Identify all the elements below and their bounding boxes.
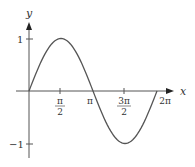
x-tick-label-3pi-over-2-num: 3π xyxy=(118,96,130,106)
sine-chart: x y 1 −1 π 2 π 3π 2 2π xyxy=(0,0,195,167)
x-tick-label-2pi: 2π xyxy=(159,96,171,106)
x-tick-label-3pi-over-2-den: 2 xyxy=(121,107,127,117)
x-tick-label-pi-over-2-den: 2 xyxy=(57,107,63,117)
x-tick-label-pi-over-2-num: π xyxy=(57,96,63,106)
y-tick-label-1: 1 xyxy=(17,34,23,45)
x-tick-label-pi: π xyxy=(87,96,93,106)
x-axis-arrow-icon xyxy=(166,88,174,94)
x-axis-label: x xyxy=(180,85,187,98)
y-axis-label: y xyxy=(25,7,33,20)
y-axis-arrow-icon xyxy=(26,22,32,30)
y-tick-label-neg1: −1 xyxy=(9,139,24,150)
chart-svg: x y 1 −1 π 2 π 3π 2 2π xyxy=(0,0,195,167)
